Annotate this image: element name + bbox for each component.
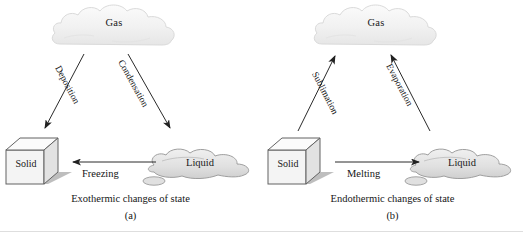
panel-a-caption: Exothermic changes of state	[0, 193, 261, 204]
panel-b-letter: (b)	[262, 210, 523, 221]
panel-exothermic: Gas Solid	[0, 0, 261, 232]
evaporation-arrow	[391, 55, 430, 131]
panel-b-caption: Endothermic changes of state	[262, 193, 523, 204]
bottom-divider	[0, 231, 523, 232]
changes-of-state-figure: Gas Solid	[0, 0, 523, 232]
panel-a-letter: (a)	[0, 210, 261, 221]
panel-endothermic: Gas Solid	[262, 0, 523, 232]
melting-label: Melting	[347, 168, 380, 179]
freezing-label: Freezing	[82, 168, 119, 179]
